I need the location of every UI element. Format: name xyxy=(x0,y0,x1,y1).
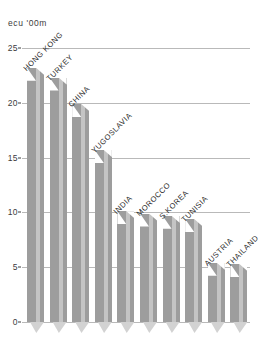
bar-shadow xyxy=(166,322,180,333)
bar-shadow xyxy=(98,322,112,333)
bar xyxy=(27,68,44,322)
bar-highlight xyxy=(239,264,243,322)
y-axis-tick-label: 10 xyxy=(8,207,18,217)
bar-highlight xyxy=(172,216,176,322)
bar-shadow xyxy=(75,322,89,333)
bar-shadow xyxy=(143,322,157,333)
y-axis-tick-mark xyxy=(18,48,21,49)
bar-highlight xyxy=(59,78,63,322)
y-axis-title: ecu '00m xyxy=(8,18,47,28)
bar-shadow xyxy=(211,322,225,333)
bar-shadow xyxy=(188,322,202,333)
bar xyxy=(72,104,89,322)
bar-shadow xyxy=(233,322,247,333)
bar-highlight xyxy=(126,211,130,322)
bar xyxy=(50,78,67,322)
bar-highlight xyxy=(217,263,221,322)
bar-highlight xyxy=(104,150,108,322)
gridline xyxy=(22,48,250,49)
y-axis-tick-mark xyxy=(18,102,21,103)
bar-chart: ecu '00m 0510152025HONG KONGTURKEYCHINAY… xyxy=(0,0,262,353)
bar xyxy=(95,150,112,322)
bar xyxy=(208,263,225,322)
y-axis-tick-mark xyxy=(18,322,21,323)
y-axis-tick-label: 5 xyxy=(13,262,18,272)
bar-category-label: YUGOSLAVIA xyxy=(89,111,133,155)
bar xyxy=(185,219,202,322)
bar-highlight xyxy=(194,219,198,322)
y-axis-tick-mark xyxy=(18,157,21,158)
bar xyxy=(163,216,180,322)
y-axis-tick-label: 25 xyxy=(8,43,18,53)
bar-highlight xyxy=(36,68,40,322)
y-axis-tick-label: 20 xyxy=(8,98,18,108)
bar-highlight xyxy=(149,214,153,323)
bar xyxy=(230,264,247,322)
bar-shadow xyxy=(120,322,134,333)
y-axis-tick-label: 15 xyxy=(8,153,18,163)
y-axis-tick-mark xyxy=(18,212,21,213)
bar xyxy=(117,211,134,322)
plot-area: 0510152025HONG KONGTURKEYCHINAYUGOSLAVIA… xyxy=(22,48,250,322)
bar-shadow xyxy=(53,322,67,333)
y-axis-tick-mark xyxy=(18,267,21,268)
bar xyxy=(140,214,157,323)
bar-shadow xyxy=(30,322,44,333)
y-axis-tick-label: 0 xyxy=(13,317,18,327)
bar-highlight xyxy=(81,104,85,322)
